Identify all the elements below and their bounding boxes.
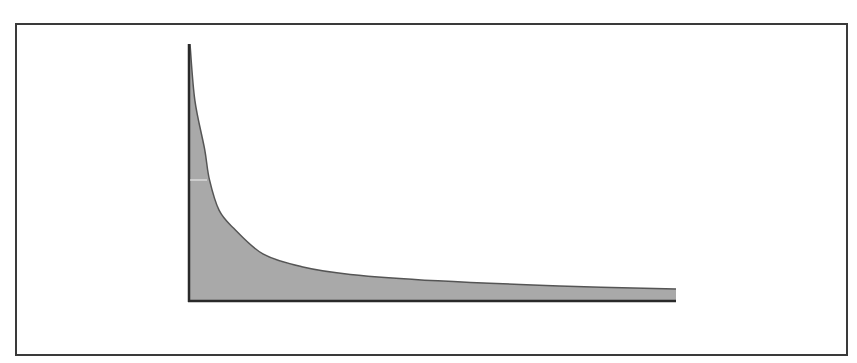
decay-curve-line [190,44,676,289]
area-under-curve [190,44,676,300]
long-tail-area-chart [0,0,857,363]
